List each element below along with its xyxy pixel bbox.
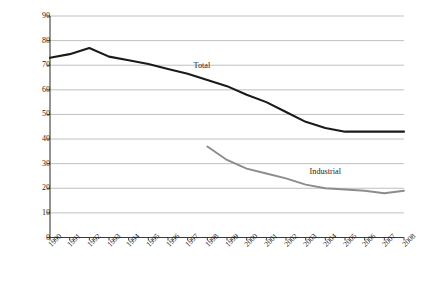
y-tick-label: 30 xyxy=(28,160,50,168)
y-tick-label: 10 xyxy=(28,209,50,217)
y-tick-label: 40 xyxy=(28,135,50,143)
axis-lines xyxy=(47,16,404,238)
annotation-industrial: Industrial xyxy=(310,167,341,176)
series-lines xyxy=(50,48,404,193)
y-tick-label: 60 xyxy=(28,86,50,94)
y-tick-label: 90 xyxy=(28,12,50,20)
series-line-industrial xyxy=(207,146,404,193)
y-tick-label: 50 xyxy=(28,110,50,118)
y-tick-label: 20 xyxy=(28,184,50,192)
annotation-total: Total xyxy=(194,61,211,70)
chart-container: Million Workers 0102030405060708090 1990… xyxy=(0,0,421,286)
y-axis-tick-labels: 0102030405060708090 xyxy=(24,0,50,286)
gridlines xyxy=(50,16,404,213)
y-tick-label: 70 xyxy=(28,61,50,69)
y-tick-label: 80 xyxy=(28,37,50,45)
